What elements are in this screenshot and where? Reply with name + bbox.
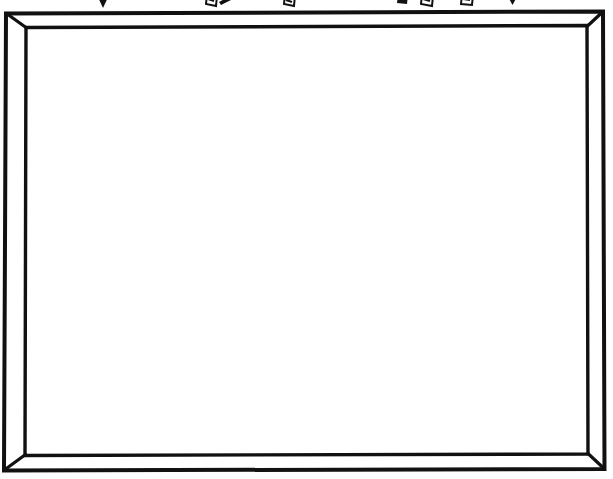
beveled-rectangular-frame bbox=[0, 0, 613, 479]
chevron-down-icon[interactable] bbox=[95, 0, 111, 9]
cursor-arrow-icon[interactable] bbox=[420, 0, 435, 9]
pointer-tail-icon[interactable] bbox=[219, 0, 236, 9]
screenshot-canvas bbox=[0, 0, 613, 479]
frame-outer-band bbox=[5, 12, 604, 470]
clipped-toolbar-strip bbox=[0, 0, 613, 10]
cursor-arrow-icon[interactable] bbox=[460, 0, 475, 9]
cursor-arrow-icon[interactable] bbox=[397, 0, 410, 9]
chevron-down-icon[interactable] bbox=[507, 0, 518, 9]
cursor-arrow-icon[interactable] bbox=[205, 0, 219, 9]
cursor-arrow-icon[interactable] bbox=[283, 0, 297, 9]
